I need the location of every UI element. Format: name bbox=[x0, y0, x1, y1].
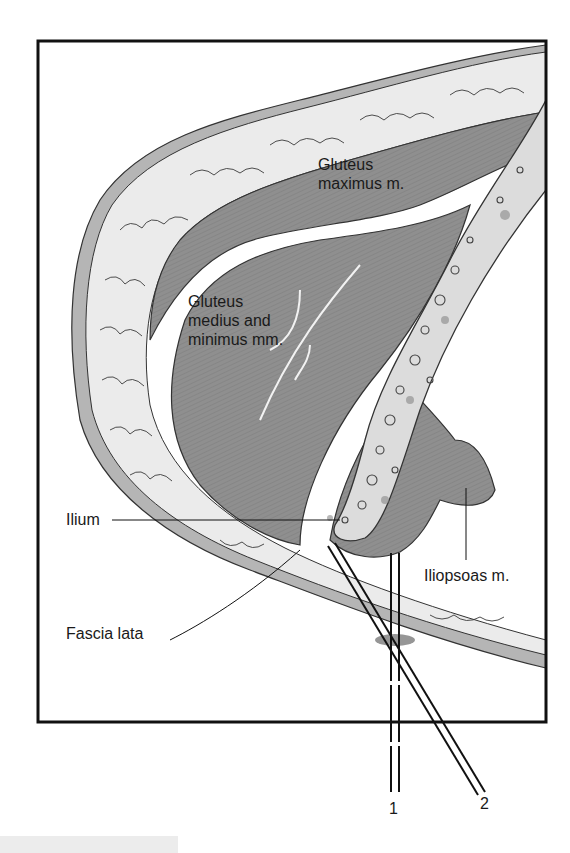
label-iliopsoas: Iliopsoas m. bbox=[424, 566, 509, 585]
needle-1 bbox=[388, 553, 402, 792]
label-needle-2: 2 bbox=[480, 795, 489, 813]
label-gluteus-maximus: Gluteus maximus m. bbox=[318, 155, 404, 193]
label-fascia-lata: Fascia lata bbox=[66, 624, 143, 643]
label-needle-1: 1 bbox=[389, 800, 398, 818]
label-gluteus-medius-minimus: Gluteus medius and minimus mm. bbox=[188, 292, 283, 349]
anatomical-illustration bbox=[0, 0, 570, 853]
scan-artifact-strip bbox=[0, 836, 178, 853]
label-ilium: Ilium bbox=[66, 510, 100, 529]
